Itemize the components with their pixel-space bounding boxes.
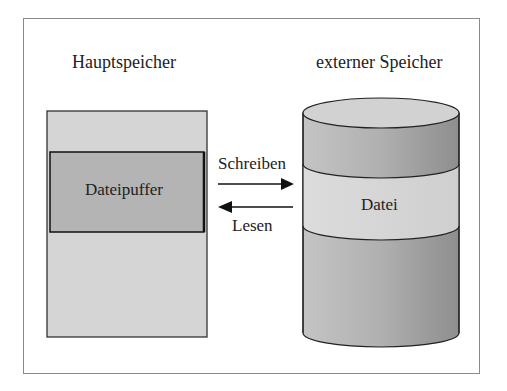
- main-memory-title: Hauptspeicher: [72, 52, 176, 73]
- external-storage-cylinder: [303, 98, 459, 347]
- file-label: Datei: [361, 195, 398, 215]
- write-arrow-icon: [218, 178, 294, 190]
- read-arrow-icon: [218, 201, 293, 213]
- write-label: Schreiben: [218, 154, 286, 174]
- external-storage-title: externer Speicher: [316, 52, 442, 73]
- file-buffer-label: Dateipuffer: [85, 180, 163, 200]
- read-label: Lesen: [232, 216, 273, 236]
